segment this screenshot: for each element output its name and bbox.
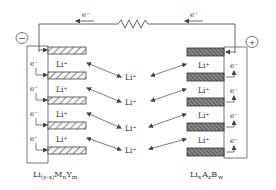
resistor-icon [118, 20, 148, 28]
cathode-ion-label: Li⁺ [198, 111, 209, 120]
anode-electron-label: e⁻ [30, 60, 38, 68]
battery-diagram: e⁻ e⁻ − + e⁻ e⁻ e⁻ e⁻ [0, 0, 276, 190]
electrolyte-ion-label: Li⁺ [125, 146, 136, 155]
cathode-electron-label: e⁻ [230, 112, 238, 120]
positive-terminal-icon: + [246, 37, 258, 48]
anode-formula: Li(y-x)MnYm [33, 170, 78, 181]
anode-electron-label: e⁻ [30, 110, 38, 118]
cathode-electron-label: e⁻ [230, 87, 238, 95]
cathode-ion-label: Li⁺ [198, 61, 209, 70]
anode-ion-label: Li⁺ [56, 135, 67, 144]
anode-ion-label: Li⁺ [56, 110, 67, 119]
anode-electron-label: e⁻ [30, 85, 38, 93]
external-electron-label-left: e⁻ [82, 11, 90, 19]
negative-electrode: e⁻ e⁻ e⁻ e⁻ Li⁺ Li⁺ Li⁺ Li⁺ Li(y-x)MnYm [27, 46, 86, 181]
svg-text:−: − [18, 33, 26, 43]
svg-text:+: + [249, 38, 256, 47]
external-electron-label-right: e⁻ [190, 11, 198, 19]
electrolyte-ion-label: Li⁺ [125, 124, 136, 133]
cathode-electron-label: e⁻ [230, 62, 238, 70]
ion-migration-arrows [87, 63, 186, 150]
positive-electrode: e⁻ e⁻ e⁻ e⁻ Li⁺ Li⁺ Li⁺ Li⁺ LixAzBw [187, 47, 247, 180]
cathode-ion-label: Li⁺ [198, 86, 209, 95]
cathode-ion-label: Li⁺ [198, 136, 209, 145]
electrolyte: Li⁺ Li⁺ Li⁺ Li⁺ [87, 63, 186, 155]
negative-terminal-icon: − [16, 33, 28, 44]
electrolyte-ion-label: Li⁺ [125, 73, 136, 82]
anode-electron-label: e⁻ [30, 135, 38, 143]
electrolyte-ion-label: Li⁺ [125, 98, 136, 107]
anode-ion-label: Li⁺ [56, 60, 67, 69]
anode-ion-label: Li⁺ [56, 85, 67, 94]
cathode-formula: LixAzBw [190, 170, 224, 180]
cathode-electron-label: e⁻ [230, 137, 238, 145]
